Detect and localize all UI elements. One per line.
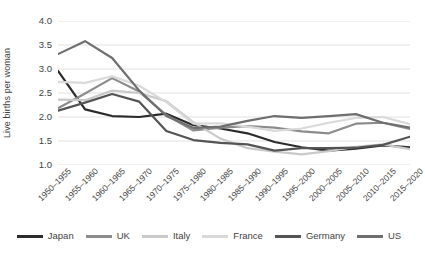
chart-legend: JapanUKItalyFranceGermanyUS <box>0 228 418 244</box>
legend-label: UK <box>117 231 130 241</box>
x-axis-tick-labels: 1950–19551955–19601960–19651965–19701970… <box>0 166 418 226</box>
legend-swatch-icon <box>17 235 43 238</box>
series-lines <box>58 41 410 154</box>
legend-swatch-icon <box>86 235 112 238</box>
y-tick-label: 4.0 <box>6 16 52 25</box>
y-tick-label: 2.0 <box>6 112 52 121</box>
series-line-japan <box>58 71 410 151</box>
legend-swatch-icon <box>357 235 383 238</box>
legend-label: France <box>233 231 263 241</box>
plot-area <box>58 21 410 165</box>
y-tick-label: 3.0 <box>6 64 52 73</box>
legend-swatch-icon <box>202 235 228 238</box>
legend-item-japan[interactable]: Japan <box>17 231 74 241</box>
legend-item-uk[interactable]: UK <box>86 231 130 241</box>
legend-item-france[interactable]: France <box>202 231 263 241</box>
series-line-italy <box>58 91 410 155</box>
y-tick-label: 3.5 <box>6 40 52 49</box>
y-axis-tick-labels: 1.01.52.02.53.03.54.0 <box>0 0 52 186</box>
legend-label: Japan <box>48 231 74 241</box>
legend-label: Italy <box>173 231 190 241</box>
legend-label: Germany <box>306 231 345 241</box>
legend-swatch-icon <box>142 235 168 238</box>
legend-item-germany[interactable]: Germany <box>275 231 345 241</box>
series-line-germany <box>58 94 410 151</box>
legend-label: US <box>388 231 401 241</box>
y-tick-label: 1.5 <box>6 136 52 145</box>
legend-item-italy[interactable]: Italy <box>142 231 190 241</box>
y-tick-label: 2.5 <box>6 88 52 97</box>
legend-swatch-icon <box>275 235 301 238</box>
plot-svg <box>58 21 410 165</box>
legend-item-us[interactable]: US <box>357 231 401 241</box>
